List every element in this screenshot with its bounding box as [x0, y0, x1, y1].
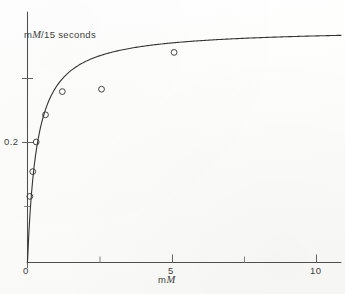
- fitted-curve: [28, 35, 342, 262]
- data-point: [59, 89, 65, 95]
- data-points: [27, 50, 177, 200]
- x-tick-label-10: 10: [310, 265, 321, 276]
- y-tick-label-0-2: 0.2: [4, 136, 18, 147]
- data-point: [171, 50, 177, 56]
- data-point: [30, 169, 36, 175]
- plot-area: [0, 0, 345, 294]
- data-point: [99, 86, 105, 92]
- data-point: [33, 139, 39, 145]
- y-axis-label-italic-m: M: [32, 29, 41, 40]
- y-axis-label: mM/15 seconds: [24, 29, 96, 40]
- y-axis-label-suffix: /15 seconds: [41, 29, 96, 40]
- x-tick-label-0: 0: [23, 265, 29, 276]
- x-tick-label-5: 5: [168, 265, 174, 276]
- axis-lines: [27, 12, 341, 263]
- figure-panel: mM/15 seconds mM 0.2 0 5 10: [0, 0, 345, 294]
